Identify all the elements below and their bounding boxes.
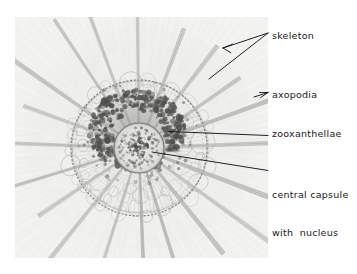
label-central-capsule-line2: with nucleus <box>272 227 348 240</box>
label-zooxanthellae: zooxanthellae <box>272 128 342 141</box>
figure-container: skeleton axopodia zooxanthellae central … <box>0 0 357 274</box>
micrograph-image <box>15 17 268 258</box>
label-central-capsule-line1: central capsule <box>272 189 348 202</box>
label-axopodia: axopodia <box>272 89 317 102</box>
label-skeleton: skeleton <box>272 30 314 43</box>
label-central-capsule: central capsule with nucleus <box>272 164 348 264</box>
